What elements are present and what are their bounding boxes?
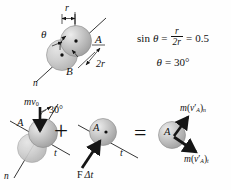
mt-m: m [184, 154, 191, 164]
fraction-denominator: 2r [171, 37, 183, 48]
label-r: r [65, 3, 69, 13]
operator-equals: = [134, 122, 146, 144]
label-impulse-force: F [77, 169, 83, 180]
label-sphere-b-top: B [66, 66, 73, 77]
operator-plus: + [54, 118, 68, 143]
eq-theta-1: θ [153, 32, 158, 44]
label-momentum-mv0: mv0 [24, 97, 39, 108]
label-sphere-a-term1: A [17, 118, 23, 129]
label-axis-n-top: n [33, 79, 38, 89]
label-sphere-a-top: A [95, 34, 102, 45]
label-sphere-a-term3: A [164, 127, 170, 138]
equation-line-1: sin θ = r 2r = 0.5 [121, 27, 225, 49]
mn-sub-n: n [203, 107, 206, 113]
label-momentum-n-component: m(v′A)n [180, 104, 206, 114]
eq-theta-2: θ [156, 56, 161, 68]
eq-equals-2: = [186, 32, 192, 44]
label-impulse-fdt: FΔt [77, 170, 93, 180]
label-mv0-subscript: 0 [36, 100, 39, 107]
eq-value-sin: 0.5 [195, 32, 209, 44]
label-2r: 2r [96, 59, 105, 69]
sphere-a [61, 26, 92, 57]
label-axis-t-term2: t [120, 148, 123, 158]
eq-equals-1: = [161, 32, 167, 44]
eq-sin: sin [137, 32, 150, 44]
dimension-r [62, 12, 75, 24]
label-theta: θ [41, 29, 46, 40]
label-angle-30-term1: 30° [49, 105, 63, 115]
eq-equals-3: = [165, 56, 171, 68]
mn-m: m [180, 103, 187, 113]
equation-block: sin θ = r 2r = 0.5 θ = 30° [121, 27, 225, 68]
mt-sub-t: t [207, 158, 209, 164]
equation-line-2: θ = 30° [121, 56, 225, 68]
fraction-r-over-2r: r 2r [171, 27, 183, 49]
eq-value-theta: 30° [174, 56, 189, 68]
label-momentum-t-component: m(v′A)t [184, 155, 209, 165]
label-axis-t-term1: t [54, 148, 57, 158]
label-sphere-a-term2: A [93, 123, 99, 134]
fraction-numerator: r [173, 27, 181, 37]
physics-impact-figure: r θ A 2r B n sin θ = r 2r = 0.5 θ = 30° [0, 0, 231, 190]
label-axis-n-term1: n [4, 172, 9, 182]
impulse-vector-fdt [82, 141, 100, 168]
label-impulse-delta-t: Δt [85, 169, 94, 180]
